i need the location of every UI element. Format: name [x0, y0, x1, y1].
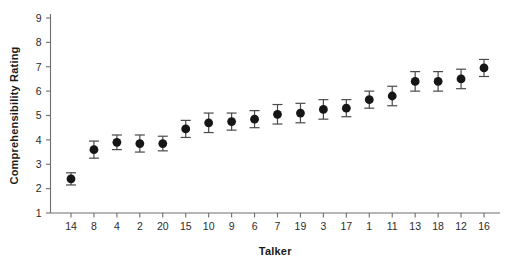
data-marker — [434, 77, 443, 86]
data-point-group — [295, 103, 305, 123]
data-point-group — [318, 100, 328, 120]
x-tick-label: 18 — [432, 220, 444, 232]
data-point-group — [112, 135, 122, 150]
y-tick-label: 9 — [36, 12, 42, 24]
data-marker — [90, 145, 99, 154]
x-tick-label: 8 — [91, 220, 97, 232]
x-tick-label: 17 — [340, 220, 352, 232]
data-marker — [319, 105, 328, 114]
chart-canvas: 123456789148422015109671931711113181216C… — [0, 0, 514, 263]
x-tick-label: 20 — [157, 220, 169, 232]
x-tick-label: 11 — [387, 220, 398, 232]
data-marker — [67, 174, 76, 183]
x-tick-label: 13 — [409, 220, 421, 232]
data-marker — [250, 115, 259, 124]
y-tick-label: 7 — [36, 61, 42, 73]
data-marker — [388, 92, 397, 101]
y-tick-label: 1 — [36, 207, 42, 219]
data-marker — [273, 110, 282, 119]
data-point-group — [410, 72, 420, 92]
x-axis-title: Talker — [259, 245, 292, 257]
data-point-group — [433, 72, 443, 92]
x-tick-label: 9 — [229, 220, 235, 232]
x-tick-label: 2 — [137, 220, 143, 232]
data-marker — [112, 138, 121, 147]
data-point-group — [89, 141, 99, 158]
y-tick-label: 5 — [36, 109, 42, 121]
data-marker — [480, 64, 489, 73]
data-marker — [227, 117, 236, 126]
x-tick-label: 6 — [252, 220, 258, 232]
data-point-group — [204, 113, 214, 133]
x-tick-label: 10 — [203, 220, 215, 232]
x-tick-label: 7 — [275, 220, 281, 232]
x-tick-label: 12 — [455, 220, 467, 232]
data-point-group — [250, 111, 260, 128]
data-marker — [457, 75, 466, 84]
x-tick-label: 15 — [180, 220, 192, 232]
data-marker — [365, 95, 374, 104]
data-point-group — [341, 100, 351, 117]
data-marker — [135, 139, 144, 148]
data-point-group — [273, 105, 283, 125]
data-marker — [342, 104, 351, 113]
data-marker — [411, 77, 420, 86]
data-point-group — [456, 69, 466, 89]
x-tick-label: 3 — [320, 220, 326, 232]
x-tick-label: 1 — [366, 220, 372, 232]
y-tick-label: 3 — [36, 158, 42, 170]
x-tick-label: 4 — [114, 220, 120, 232]
data-marker — [204, 118, 213, 127]
y-tick-label: 4 — [36, 134, 42, 146]
data-marker — [158, 139, 167, 148]
data-point-group — [158, 136, 168, 151]
y-tick-label: 2 — [36, 182, 42, 194]
y-tick-label: 8 — [36, 36, 42, 48]
x-tick-label: 14 — [65, 220, 77, 232]
data-point-group — [66, 173, 76, 185]
y-tick-label: 6 — [36, 85, 42, 97]
data-marker — [296, 109, 305, 118]
data-marker — [181, 125, 190, 134]
data-point-group — [227, 113, 237, 130]
data-point-group — [135, 135, 145, 152]
data-point-group — [387, 86, 397, 106]
data-point-group — [364, 91, 374, 108]
data-point-group — [181, 120, 191, 137]
x-tick-label: 19 — [295, 220, 307, 232]
comprehensibility-rating-chart: 123456789148422015109671931711113181216C… — [0, 0, 514, 263]
x-tick-label: 16 — [478, 220, 490, 232]
data-point-group — [479, 59, 489, 76]
y-axis-title: Comprehensibility Rating — [8, 46, 20, 184]
